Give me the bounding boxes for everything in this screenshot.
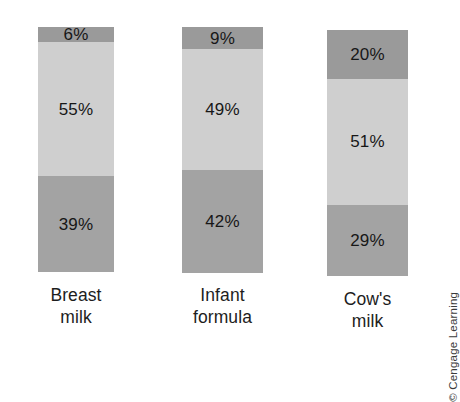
bar-segment-top[interactable]: 6%: [38, 27, 114, 42]
segment-value-label: 49%: [205, 101, 240, 118]
category-label-line: Cow's: [327, 288, 408, 310]
category-label-infant-formula: Infant formula: [182, 284, 263, 329]
segment-value-label: 9%: [210, 30, 235, 47]
bar-segment-middle[interactable]: 51%: [327, 79, 408, 204]
stacked-bar: 9% 49% 42%: [182, 27, 263, 273]
bar-segment-bottom[interactable]: 39%: [38, 176, 114, 272]
category-label-breast-milk: Breast milk: [38, 284, 114, 329]
bar-segment-bottom[interactable]: 42%: [182, 170, 263, 273]
segment-value-label: 29%: [350, 232, 385, 249]
category-label-cows-milk: Cow's milk: [327, 288, 408, 333]
category-label-line: Breast: [38, 284, 114, 306]
bar-segment-bottom[interactable]: 29%: [327, 205, 408, 276]
copyright-credit: © Cengage Learning: [448, 292, 460, 402]
bar-segment-middle[interactable]: 49%: [182, 49, 263, 170]
segment-value-label: 6%: [64, 26, 89, 43]
bar-segment-top[interactable]: 20%: [327, 30, 408, 79]
bar-group-infant-formula: 9% 49% 42% Infant formula: [182, 0, 263, 364]
bar-segment-middle[interactable]: 55%: [38, 42, 114, 177]
bar-group-cows-milk: 20% 51% 29% Cow's milk: [327, 0, 408, 364]
bar-segment-top[interactable]: 9%: [182, 27, 263, 49]
stacked-bar: 6% 55% 39%: [38, 27, 114, 272]
category-label-line: formula: [182, 306, 263, 328]
category-label-line: Infant: [182, 284, 263, 306]
segment-value-label: 51%: [350, 133, 385, 150]
segment-value-label: 39%: [59, 216, 94, 233]
segment-value-label: 55%: [59, 101, 94, 118]
category-label-line: milk: [327, 310, 408, 332]
segment-value-label: 20%: [350, 46, 385, 63]
segment-value-label: 42%: [205, 213, 240, 230]
bar-group-breast-milk: 6% 55% 39% Breast milk: [38, 0, 114, 364]
stacked-bar: 20% 51% 29%: [327, 30, 408, 276]
category-label-line: milk: [38, 306, 114, 328]
